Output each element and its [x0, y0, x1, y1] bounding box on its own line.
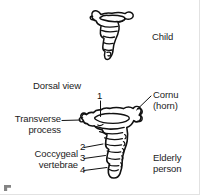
leader-line-4	[84, 168, 107, 171]
label-cornu-line2: (horn)	[153, 100, 178, 111]
label-cornu-line1: Cornu	[153, 89, 178, 100]
leader-line-cornu	[137, 96, 152, 110]
callout-number-3: 3	[80, 153, 85, 163]
label-dorsal-view: Dorsal view	[33, 80, 81, 91]
label-transverse-line2: process	[0, 124, 61, 135]
elderly-coccyx-drawing	[79, 106, 142, 178]
callout-number-1: 1	[97, 91, 102, 101]
label-elderly-line1: Elderly	[153, 152, 181, 163]
leader-line-2	[84, 144, 103, 148]
callout-number-4: 4	[80, 165, 85, 175]
leader-line-3	[84, 156, 106, 159]
coccyx-anatomy-figure: Child Dorsal view Cornu (horn) Transvers…	[0, 0, 200, 195]
label-child: Child	[152, 31, 173, 42]
child-coccyx-drawing	[90, 11, 133, 60]
label-coccygeal-line1: Coccygeal	[0, 148, 78, 159]
label-transverse-line1: Transverse	[0, 113, 61, 124]
callout-number-2: 2	[80, 142, 85, 152]
label-elderly-line2: person	[153, 163, 181, 174]
label-coccygeal-line2: vertebrae	[0, 159, 78, 170]
leader-line-transverse	[62, 120, 81, 121]
